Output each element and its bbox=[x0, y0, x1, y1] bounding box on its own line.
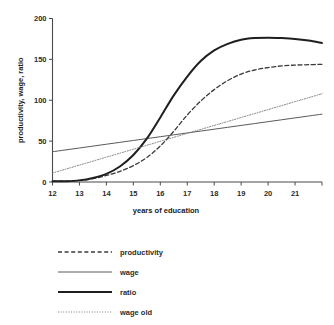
x-tick-label: 13 bbox=[75, 189, 83, 198]
y-tick-label: 200 bbox=[34, 14, 47, 23]
x-tick-label: 18 bbox=[210, 189, 218, 198]
chart-figure: 05010015020012131415161718192021years of… bbox=[0, 0, 334, 325]
legend-label-productivity: productivity bbox=[120, 248, 164, 257]
series-line-ratio bbox=[53, 38, 323, 182]
x-tick-label: 17 bbox=[183, 189, 191, 198]
x-tick-label: 12 bbox=[48, 189, 56, 198]
x-tick-label: 14 bbox=[102, 189, 111, 198]
legend-label-wage: wage bbox=[119, 268, 139, 277]
productivity-wage-ratio-chart: 05010015020012131415161718192021years of… bbox=[0, 0, 334, 325]
y-tick-label: 100 bbox=[34, 96, 47, 105]
x-tick-label: 19 bbox=[237, 189, 245, 198]
legend-label-wage-old: wage old bbox=[119, 308, 153, 317]
x-tick-label: 15 bbox=[129, 189, 137, 198]
x-axis-title: years of education bbox=[133, 206, 200, 215]
y-tick-label: 0 bbox=[42, 178, 46, 187]
series-line-productivity bbox=[53, 64, 323, 181]
x-tick-label: 21 bbox=[291, 189, 299, 198]
x-tick-label: 16 bbox=[156, 189, 164, 198]
y-tick-label: 50 bbox=[38, 137, 46, 146]
y-axis-title: productivity, wage, ratio bbox=[16, 57, 25, 143]
series-line-wage-old bbox=[53, 94, 323, 173]
y-tick-label: 150 bbox=[34, 55, 47, 64]
x-tick-label: 20 bbox=[264, 189, 272, 198]
legend-label-ratio: ratio bbox=[120, 288, 137, 297]
